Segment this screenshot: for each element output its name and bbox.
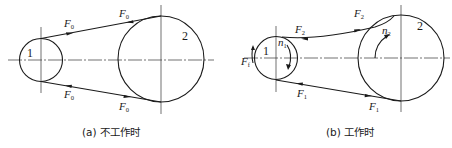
speed-label-n1: n1 — [278, 36, 287, 49]
arrow-icon-rotation-n1 — [286, 64, 291, 70]
tension-label-wrap-left-b: Ff — [240, 55, 251, 68]
pulley-label-2-b: 2 — [417, 19, 423, 33]
caption-b: (b) 工作时 — [326, 126, 375, 138]
pulley-label-1: 1 — [27, 46, 33, 60]
lower-belt-span — [41, 82, 161, 103]
lower-tight-belt-span — [276, 80, 401, 101]
tension-label-lower-right: F0 — [118, 100, 129, 113]
tension-label-lower-left-b: F1 — [296, 87, 307, 100]
speed-label-n2: n2 — [382, 24, 391, 37]
rotation-arc-n2 — [375, 36, 387, 58]
tension-label-lower-left: F0 — [63, 88, 74, 101]
tension-label-upper-right-b: F2 — [353, 7, 364, 20]
pulley-label-1-b: 1 — [263, 44, 269, 58]
tension-label-lower-right-b: F1 — [368, 100, 379, 113]
tension-label-upper-left-b: F2 — [294, 23, 305, 36]
tension-label-upper-right: F0 — [118, 7, 129, 20]
arrow-icon-friction — [251, 45, 255, 50]
pulley-label-2: 2 — [182, 29, 188, 43]
panel-a-not-working: 1 2 F0 F0 F0 F0 (a) 不工作时 — [8, 5, 214, 138]
caption-a: (a) 不工作时 — [82, 126, 141, 138]
panel-b-working: 1 2 n1 n2 F2 F2 F1 F1 Ff (b) 工作时 — [240, 5, 450, 138]
rotation-arc-n1 — [287, 45, 291, 67]
tension-label-upper-left: F0 — [63, 17, 74, 30]
belt-drive-figure: 1 2 F0 F0 F0 F0 (a) 不工作时 — [0, 0, 452, 148]
upper-belt-span — [41, 16, 161, 39]
